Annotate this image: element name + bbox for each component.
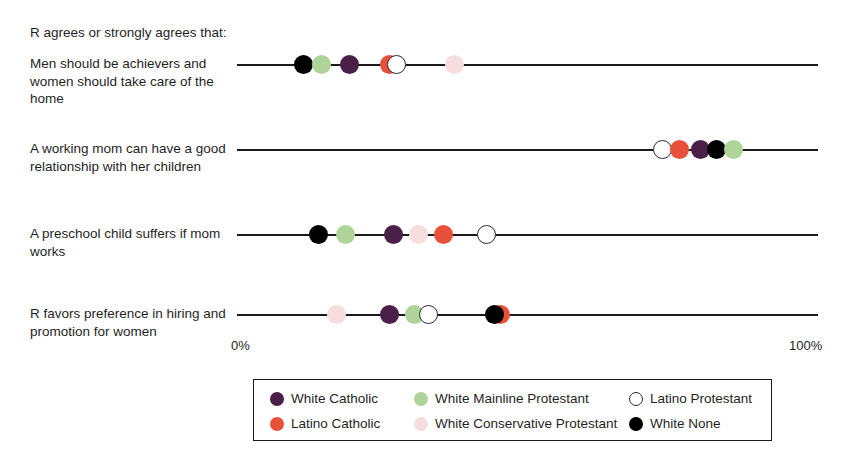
data-point <box>419 305 438 324</box>
row-axis <box>237 225 818 245</box>
data-point <box>294 55 313 74</box>
data-point <box>336 225 355 244</box>
legend-item-label: White None <box>650 416 721 431</box>
chart-row: R favors preference in hiring and promot… <box>0 305 858 385</box>
legend-item-label: White Conservative Protestant <box>435 416 617 431</box>
row-label: A preschool child suffers if mom works <box>30 225 235 260</box>
legend-item[interactable]: White Mainline Protestant <box>414 391 589 406</box>
axis-min-label: 0% <box>231 338 250 353</box>
row-axis <box>237 305 818 325</box>
legend-swatch-icon <box>629 392 643 406</box>
data-point <box>340 55 359 74</box>
legend-swatch-icon <box>414 392 428 406</box>
legend-item-label: Latino Catholic <box>291 416 380 431</box>
legend-swatch-icon <box>629 417 643 431</box>
data-point <box>670 140 689 159</box>
data-point <box>327 305 346 324</box>
data-point <box>409 225 428 244</box>
row-label: A working mom can have a good relationsh… <box>30 140 235 175</box>
legend-swatch-icon <box>270 417 284 431</box>
legend-swatch-icon <box>270 392 284 406</box>
legend-item[interactable]: White None <box>629 416 721 431</box>
data-point <box>724 140 743 159</box>
chart-legend: White CatholicLatino CatholicWhite Mainl… <box>253 379 772 441</box>
legend-item[interactable]: White Catholic <box>270 391 378 406</box>
data-point <box>387 55 406 74</box>
legend-item[interactable]: Latino Catholic <box>270 416 380 431</box>
chart-row: A preschool child suffers if mom works <box>0 225 858 305</box>
data-point <box>312 55 331 74</box>
row-axis <box>237 140 818 160</box>
chart-row: Men should be achievers and women should… <box>0 55 858 135</box>
legend-item[interactable]: White Conservative Protestant <box>414 416 617 431</box>
row-axis <box>237 55 818 75</box>
data-point <box>309 225 328 244</box>
legend-item-label: White Catholic <box>291 391 378 406</box>
chart-row: A working mom can have a good relationsh… <box>0 140 858 220</box>
data-point <box>445 55 464 74</box>
data-point <box>434 225 453 244</box>
data-point <box>477 225 496 244</box>
legend-swatch-icon <box>414 417 428 431</box>
row-label: R favors preference in hiring and promot… <box>30 305 235 340</box>
axis-max-label: 100% <box>789 338 822 353</box>
legend-item-label: White Mainline Protestant <box>435 391 589 406</box>
legend-item[interactable]: Latino Protestant <box>629 391 752 406</box>
chart-intro-text: R agrees or strongly agrees that: <box>30 24 227 41</box>
data-point <box>384 225 403 244</box>
row-label: Men should be achievers and women should… <box>30 55 235 108</box>
data-point <box>380 305 399 324</box>
legend-item-label: Latino Protestant <box>650 391 752 406</box>
axis-line <box>237 314 818 316</box>
dot-plot-chart: R agrees or strongly agrees that: Men sh… <box>0 0 858 476</box>
